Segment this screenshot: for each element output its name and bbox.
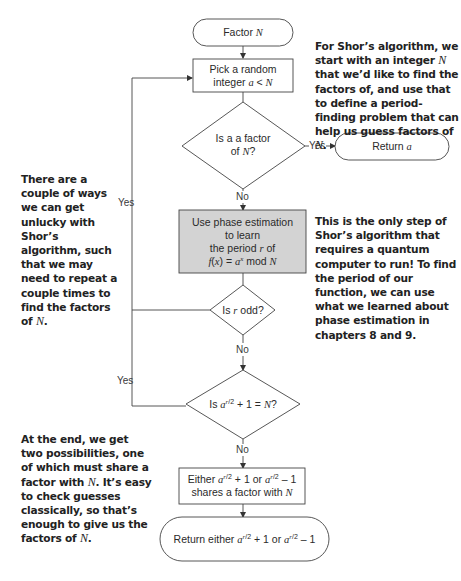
start-label: Factor NFactor N bbox=[193, 19, 293, 46]
intro-end: . bbox=[323, 139, 327, 151]
no-label-factor: No bbox=[236, 191, 249, 202]
is-factor-label: Is a a factor of N? bbox=[196, 126, 290, 164]
yes-label-equal: Yes bbox=[117, 375, 133, 386]
unlucky-var: N bbox=[36, 314, 44, 328]
annotation-unlucky: There are a couple of ways we can get un… bbox=[21, 172, 121, 328]
annotation-intro: For Shor’s algorithm, we start with an i… bbox=[315, 39, 461, 153]
return-either-label: Return either ar/2 + 1 or ar/2 – 1 bbox=[160, 517, 329, 561]
phase-line1: Use phase estimation bbox=[192, 216, 293, 229]
no-label-equal: No bbox=[236, 444, 249, 455]
pick-line1: Pick a random bbox=[209, 63, 276, 76]
unlucky-end: . bbox=[44, 315, 48, 327]
phase-line4: f(x) = ax mod N bbox=[208, 255, 276, 268]
no-label-odd: No bbox=[236, 344, 249, 355]
intro-text-a: For Shor’s algorithm, we start with an i… bbox=[315, 40, 458, 66]
phase-estimation-label: Use phase estimation to learn the period… bbox=[179, 210, 306, 273]
annotation-end: At the end, we get two possibilities, on… bbox=[21, 432, 153, 546]
phase-line2: to learn bbox=[225, 229, 260, 242]
end-end: . bbox=[88, 532, 92, 544]
is-odd-label: Is r odd? bbox=[210, 300, 276, 320]
intro-text-b: that we’d like to find the factors of, a… bbox=[315, 68, 459, 137]
unlucky-text: There are a couple of ways we can get un… bbox=[21, 173, 117, 327]
is-equal-label: Is ar/2 + 1 = N? bbox=[186, 394, 300, 414]
is-factor-line2: of N? bbox=[231, 145, 256, 158]
end-var-b: N bbox=[80, 531, 88, 545]
annotation-quantum: This is the only step of Shor’s algorith… bbox=[315, 214, 461, 342]
is-factor-line1: Is a a factor bbox=[216, 132, 271, 145]
intro-var: N bbox=[438, 53, 446, 67]
pick-line2: integer a < N bbox=[213, 76, 272, 89]
either-label: Either ar/2 + 1 or ar/2 – 1 shares a fac… bbox=[179, 468, 305, 504]
pick-label: Pick a random integer a < N bbox=[193, 59, 293, 92]
phase-line3: the period r of bbox=[210, 242, 275, 255]
quantum-text: This is the only step of Shor’s algorith… bbox=[315, 215, 456, 341]
intro-end-var: N bbox=[315, 138, 323, 152]
